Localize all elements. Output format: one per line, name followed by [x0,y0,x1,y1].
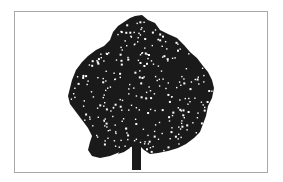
tree-illustration [0,0,283,182]
tree-canopy [68,15,214,158]
tree-trunk [132,138,141,170]
